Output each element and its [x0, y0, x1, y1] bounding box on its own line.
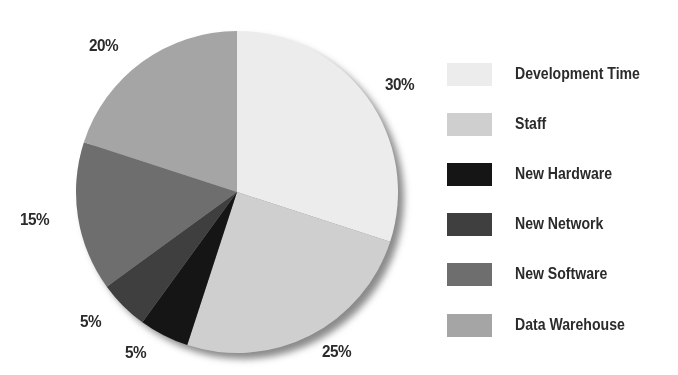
legend-swatch: [447, 213, 492, 236]
data-label-staff: 25%: [322, 342, 351, 362]
legend-item-new-software: New Software: [447, 263, 677, 286]
legend-label: Data Warehouse: [515, 316, 625, 334]
legend-label: New Software: [515, 265, 607, 283]
data-label-data-warehouse: 20%: [89, 36, 118, 56]
legend-item-staff: Staff: [447, 113, 677, 136]
legend-label: New Hardware: [515, 165, 612, 183]
pie-slices: [76, 31, 398, 353]
legend-swatch: [447, 113, 492, 136]
legend-item-new-hardware: New Hardware: [447, 163, 677, 186]
legend-label: Development Time: [515, 65, 640, 83]
data-label-new-software: 15%: [20, 210, 49, 230]
legend-item-development-time: Development Time: [447, 63, 677, 86]
legend-label: New Network: [515, 215, 603, 233]
legend-item-new-network: New Network: [447, 213, 677, 236]
legend-swatch: [447, 163, 492, 186]
legend-swatch: [447, 263, 492, 286]
data-label-new-network: 5%: [80, 312, 101, 332]
legend-label: Staff: [515, 115, 546, 133]
legend-swatch: [447, 314, 492, 337]
legend-item-data-warehouse: Data Warehouse: [447, 314, 677, 337]
data-label-new-hardware: 5%: [125, 343, 146, 363]
legend-swatch: [447, 63, 492, 86]
data-label-development-time: 30%: [385, 75, 414, 95]
